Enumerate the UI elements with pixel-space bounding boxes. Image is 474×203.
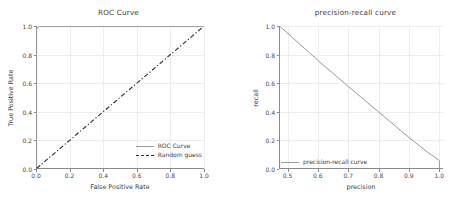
roc-y-axis-label: True Positive Rate [7,68,15,128]
pr-curve-svg [279,26,443,169]
roc-ytick-mark-2 [34,112,37,113]
pr-ytick-mark-1 [277,140,280,141]
roc-x-axis-label: False Positive Rate [90,183,149,191]
pr-xtick-label-3: 0.8 [374,172,384,179]
pr-xtick-label-4: 0.9 [404,172,414,179]
pr-chart-panel: precision-recall curve [237,0,474,203]
roc-xtick-label-4: 0.8 [166,172,176,179]
roc-ytick-mark-1 [34,140,37,141]
pr-ytick-label-1: 0.2 [261,137,275,144]
roc-ytick-label-1: 0.2 [18,137,32,144]
pr-xtick-label-0: 0.5 [283,172,293,179]
pr-xtick-label-1: 0.6 [313,172,323,179]
roc-xtick-label-5: 1.0 [199,172,209,179]
roc-ytick-label-0: 0.0 [18,166,32,173]
roc-ytick-mark-3 [34,83,37,84]
roc-ytick-label-3: 0.6 [18,80,32,87]
roc-legend-item-roc: ROC Curve [136,141,202,150]
roc-ytick-label-4: 0.8 [18,51,32,58]
roc-ytick-mark-5 [34,26,37,27]
roc-ytick-label-5: 1.0 [18,23,32,30]
pr-ytick-label-4: 0.8 [261,51,275,58]
pr-y-axis-label: recall [252,83,260,113]
roc-plot-area: ROC Curve Random guess [36,26,204,169]
roc-xtick-label-2: 0.4 [98,172,108,179]
pr-xtick-label-2: 0.7 [343,172,353,179]
roc-legend-label-roc: ROC Curve [158,143,191,149]
pr-ytick-label-0: 0.0 [261,166,275,173]
pr-legend: precision-recall curve [281,157,367,166]
roc-chart-panel: ROC Curve [0,0,237,203]
pr-ytick-label-5: 1.0 [261,23,275,30]
roc-ytick-label-2: 0.4 [18,108,32,115]
pr-legend-label: precision-recall curve [303,159,367,165]
pr-legend-swatch-solid [281,158,299,165]
roc-gridline-x-1.0 [204,26,205,169]
roc-ytick-mark-4 [34,55,37,56]
pr-chart-title: precision-recall curve [237,8,474,17]
pr-ytick-label-2: 0.4 [261,108,275,115]
roc-ytick-mark-0 [34,169,37,170]
pr-ytick-mark-5 [277,26,280,27]
roc-xtick-label-3: 0.6 [132,172,142,179]
pr-ytick-label-3: 0.6 [261,80,275,87]
pr-ytick-mark-0 [277,169,280,170]
roc-legend: ROC Curve Random guess [136,141,202,159]
roc-legend-swatch-solid [136,142,154,149]
roc-legend-item-random: Random guess [136,150,202,159]
pr-plot-area: precision-recall curve [279,26,443,169]
pr-xtick-label-5: 1.0 [435,172,445,179]
figure-canvas: ROC Curve [0,0,474,203]
pr-legend-item: precision-recall curve [281,157,367,166]
roc-legend-label-random: Random guess [158,152,202,158]
pr-ytick-mark-3 [277,83,280,84]
roc-xtick-label-1: 0.2 [65,172,75,179]
roc-legend-swatch-dashdot [136,151,154,158]
pr-x-axis-label: precision [347,183,376,191]
roc-xtick-label-0: 0.0 [31,172,41,179]
pr-ytick-mark-4 [277,55,280,56]
pr-curve-line [280,27,439,169]
roc-chart-title: ROC Curve [0,8,237,17]
pr-ytick-mark-2 [277,112,280,113]
